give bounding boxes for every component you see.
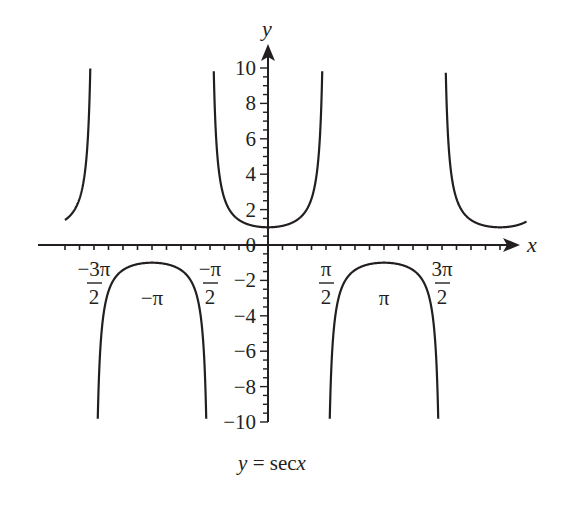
x-tick-label-denominator: 2 xyxy=(321,285,332,309)
x-tick-label-numerator: π xyxy=(321,257,332,281)
x-tick-label: π xyxy=(379,286,390,310)
y-tick-label: 10 xyxy=(235,56,256,80)
y-axis-label: y xyxy=(260,16,272,41)
y-tick-label: −10 xyxy=(223,410,256,434)
y-tick-label: −4 xyxy=(234,304,257,328)
secant-curve xyxy=(65,68,527,418)
x-axis-label: x xyxy=(526,232,537,257)
x-tick-label-numerator: 3π xyxy=(431,257,453,281)
y-tick-label: −2 xyxy=(234,268,256,292)
curve-branch-4 xyxy=(446,73,527,228)
y-tick-label: 4 xyxy=(246,162,257,186)
x-tick-label-denominator: 2 xyxy=(437,285,448,309)
y-tick-label: 0 xyxy=(246,233,257,257)
y-tick-label: −8 xyxy=(234,375,256,399)
axes xyxy=(38,44,520,422)
y-tick-label: 6 xyxy=(246,127,257,151)
secant-chart: −10−8−6−4−20246810 −3π2−π−π2π2π3π2 y x y… xyxy=(0,0,565,513)
y-tick-label: 8 xyxy=(246,91,257,115)
chart-caption: y = secx xyxy=(236,451,307,475)
y-tick-label: −6 xyxy=(234,339,256,363)
x-tick-label-numerator: −3π xyxy=(78,257,111,281)
x-tick-label-denominator: 2 xyxy=(205,285,216,309)
curve-branch-0 xyxy=(65,68,90,220)
x-tick-label: −π xyxy=(141,286,164,310)
y-tick-label: 2 xyxy=(246,198,257,222)
x-tick-label-numerator: −π xyxy=(199,257,222,281)
x-tick-label-denominator: 2 xyxy=(89,285,100,309)
